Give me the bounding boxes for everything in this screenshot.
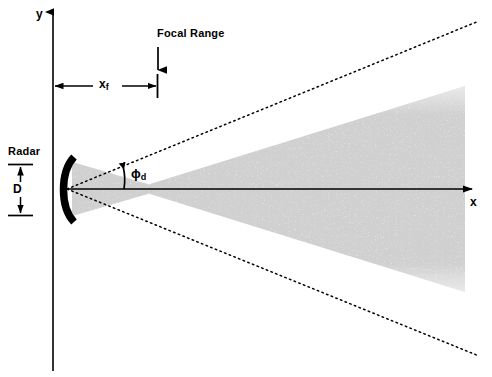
diagram-canvas	[0, 0, 492, 377]
x-axis-label: x	[470, 196, 477, 208]
focal-distance-label: xf	[99, 78, 109, 92]
focal-range-label: Focal Range	[157, 28, 225, 39]
focal-distance-symbol: x	[99, 77, 106, 91]
radar-beam-diagram: Focal Range Radar y x D xf ϕd	[0, 0, 492, 377]
divergence-angle-symbol: ϕ	[131, 166, 141, 181]
aperture-diameter-label: D	[13, 183, 22, 195]
radar-label: Radar	[8, 146, 40, 157]
divergence-angle-subscript: d	[141, 172, 147, 182]
y-axis-label: y	[36, 8, 43, 20]
focal-distance-subscript: f	[106, 82, 109, 92]
divergence-angle-label: ϕd	[131, 167, 146, 182]
